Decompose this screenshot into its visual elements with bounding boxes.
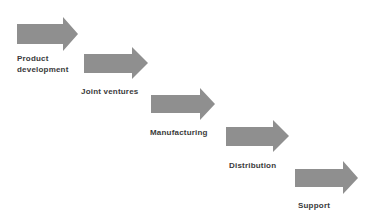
step-1-label-line1: Product [17, 53, 69, 64]
step-1-label-line2: development [17, 64, 69, 75]
step-5-label: Support [298, 200, 330, 211]
step-2-arrow-icon [84, 47, 148, 79]
process-flow-arrows [0, 0, 380, 219]
step-3-arrow-icon [151, 88, 215, 120]
step-1-arrow-icon [17, 17, 78, 51]
step-3-label: Manufacturing [150, 127, 208, 138]
step-5-arrow-icon [295, 161, 358, 194]
step-4-arrow-icon [226, 120, 289, 152]
step-1-label: Product development [17, 53, 69, 75]
step-4-label: Distribution [229, 160, 276, 171]
step-2-label: Joint ventures [81, 86, 138, 97]
